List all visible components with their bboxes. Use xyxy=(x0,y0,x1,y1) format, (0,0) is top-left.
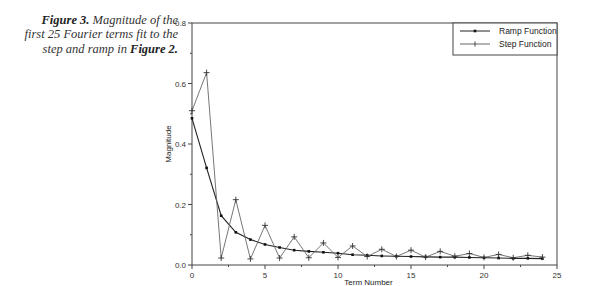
y-tick-label: 0.4 xyxy=(175,140,187,149)
chart-series xyxy=(189,70,545,262)
x-tick-label: 0 xyxy=(190,271,195,280)
legend-label: Ramp Function xyxy=(499,26,557,36)
plot-frame xyxy=(192,23,557,265)
ramp-data-point xyxy=(381,255,384,258)
ramp-data-point xyxy=(468,256,471,259)
step-data-point xyxy=(379,246,385,252)
step-data-point xyxy=(247,256,253,262)
y-tick-label: 0.8 xyxy=(175,19,187,28)
step-data-point xyxy=(364,254,370,260)
x-tick-label: 20 xyxy=(480,271,489,280)
ramp-data-point xyxy=(249,238,252,241)
chart-axes: 05101520250.00.20.40.60.8Term NumberMagn… xyxy=(164,19,562,286)
step-data-point xyxy=(466,251,472,257)
ramp-data-point xyxy=(191,117,194,120)
step-data-point xyxy=(481,254,487,260)
step-function-line xyxy=(192,73,542,259)
step-data-point xyxy=(218,255,224,261)
step-data-point xyxy=(510,255,516,261)
ramp-data-point xyxy=(278,246,281,249)
x-tick-label: 5 xyxy=(263,271,268,280)
x-tick-label: 10 xyxy=(334,271,343,280)
chart-legend: Ramp FunctionStep Function xyxy=(453,23,557,55)
step-data-point xyxy=(539,254,545,260)
step-data-point xyxy=(408,247,414,253)
magnitude-line-chart: 05101520250.00.20.40.60.8Term NumberMagn… xyxy=(0,0,589,286)
legend-dot-marker-icon xyxy=(474,30,477,33)
ramp-data-point xyxy=(264,243,267,246)
y-tick-label: 0.6 xyxy=(175,80,187,89)
ramp-data-point xyxy=(337,252,340,255)
ramp-data-point xyxy=(410,255,413,258)
ramp-data-point xyxy=(293,249,296,252)
ramp-data-point xyxy=(220,214,223,217)
ramp-data-point xyxy=(351,253,354,256)
ramp-data-point xyxy=(205,167,208,170)
step-data-point xyxy=(452,253,458,259)
x-tick-label: 15 xyxy=(407,271,416,280)
ramp-data-point xyxy=(322,251,325,254)
legend-label: Step Function xyxy=(499,39,552,49)
step-data-point xyxy=(291,234,297,240)
ramp-data-point xyxy=(235,231,238,234)
step-data-point xyxy=(437,248,443,254)
step-data-point xyxy=(233,197,239,203)
step-data-point xyxy=(525,252,531,258)
x-tick-label: 25 xyxy=(553,271,562,280)
step-data-point xyxy=(262,222,268,228)
step-data-point xyxy=(393,254,399,260)
step-data-point xyxy=(277,255,283,261)
y-axis-title: Magnitude xyxy=(164,125,173,163)
step-data-point xyxy=(204,70,210,76)
y-tick-label: 0.2 xyxy=(175,201,187,210)
ramp-data-point xyxy=(308,250,311,253)
step-data-point xyxy=(189,108,195,114)
y-tick-label: 0.0 xyxy=(175,261,187,270)
ramp-data-point xyxy=(439,256,442,259)
step-data-point xyxy=(423,254,429,260)
ramp-function-line xyxy=(192,118,542,258)
step-data-point xyxy=(496,251,502,257)
x-axis-title: Term Number xyxy=(344,278,393,286)
